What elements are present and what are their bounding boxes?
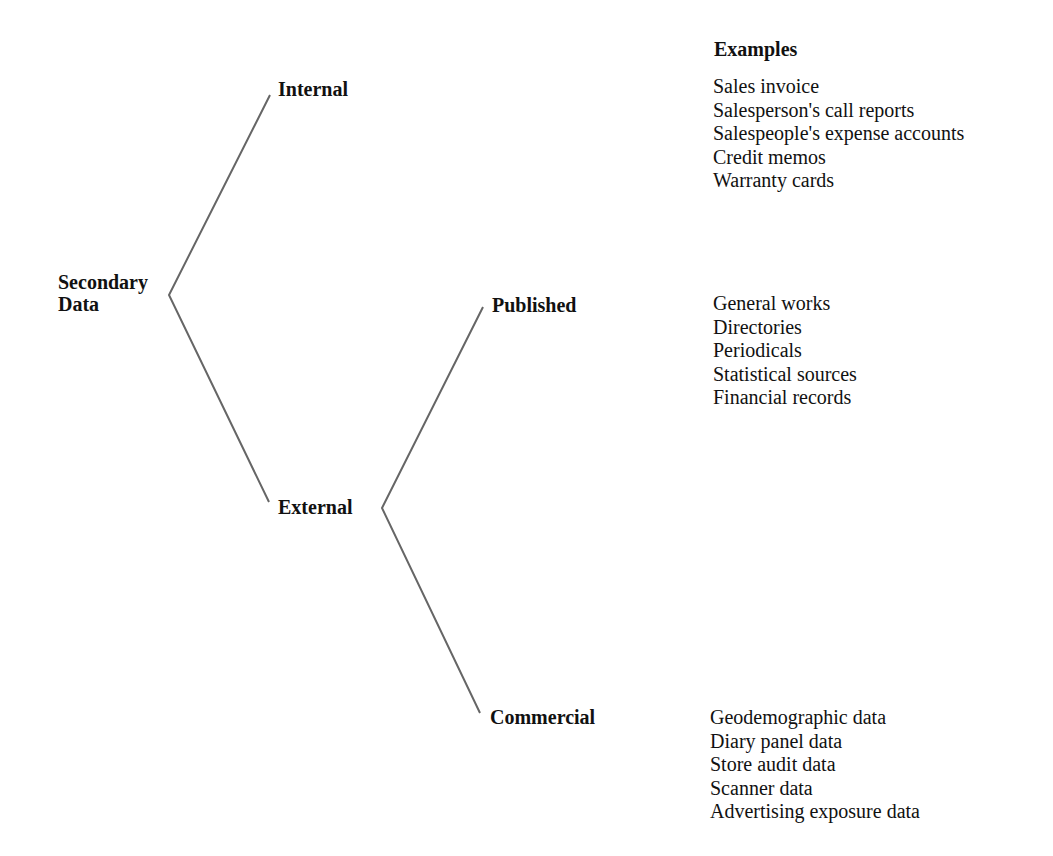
list-item: Statistical sources: [713, 363, 857, 387]
list-item: Advertising exposure data: [710, 800, 920, 824]
node-internal: Internal: [278, 78, 348, 100]
list-item: Directories: [713, 316, 857, 340]
list-item: Diary panel data: [710, 730, 920, 754]
list-item: Scanner data: [710, 777, 920, 801]
list-item: Store audit data: [710, 753, 920, 777]
list-item: General works: [713, 292, 857, 316]
internal-examples-list: Sales invoice Salesperson's call reports…: [713, 75, 964, 193]
list-item: Periodicals: [713, 339, 857, 363]
list-item: Salespeople's expense accounts: [713, 122, 964, 146]
node-published: Published: [492, 294, 576, 316]
list-item: Credit memos: [713, 146, 964, 170]
list-item: Financial records: [713, 386, 857, 410]
connector-secondary-internal-external: [169, 95, 270, 502]
node-external: External: [278, 496, 352, 518]
node-commercial: Commercial: [490, 706, 595, 728]
examples-heading: Examples: [714, 38, 797, 60]
list-item: Sales invoice: [713, 75, 964, 99]
node-secondary-label-line2: Data: [58, 293, 148, 315]
list-item: Warranty cards: [713, 169, 964, 193]
connector-external-published-commercial: [382, 307, 483, 713]
node-secondary-label-line1: Secondary: [58, 271, 148, 293]
list-item: Salesperson's call reports: [713, 99, 964, 123]
node-secondary-data: Secondary Data: [58, 271, 148, 315]
published-examples-list: General works Directories Periodicals St…: [713, 292, 857, 410]
commercial-examples-list: Geodemographic data Diary panel data Sto…: [710, 706, 920, 824]
list-item: Geodemographic data: [710, 706, 920, 730]
